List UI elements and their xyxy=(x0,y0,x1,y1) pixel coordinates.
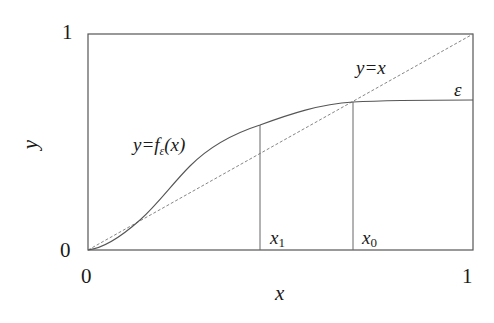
curve-label-suffix: (x) xyxy=(164,134,185,155)
x-axis-label: x xyxy=(275,283,284,304)
y-axis-label: y xyxy=(20,140,41,149)
curve-label: y=fε(x) xyxy=(133,135,185,157)
x-tick-1: 1 xyxy=(462,266,473,287)
x-tick-0: 0 xyxy=(81,266,92,287)
plot-figure xyxy=(0,0,494,323)
y-tick-1: 1 xyxy=(62,22,73,43)
x0-label-sub: 0 xyxy=(370,235,377,250)
identity-label: y=x xyxy=(356,58,386,77)
y-tick-0: 0 xyxy=(60,240,71,261)
x1-label: x1 xyxy=(270,228,285,249)
x0-label: x0 xyxy=(362,228,377,249)
epsilon-label: ε xyxy=(454,80,462,99)
curve-label-prefix: y=f xyxy=(133,134,160,155)
x1-label-sub: 1 xyxy=(278,235,285,250)
